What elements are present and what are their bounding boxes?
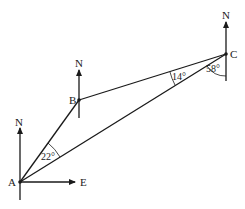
side-ac — [20, 54, 226, 182]
point-b — [77, 98, 81, 102]
north-label-a: N — [15, 116, 23, 128]
point-a — [18, 180, 22, 184]
side-bc — [79, 54, 226, 100]
point-c — [224, 52, 228, 56]
north-label-b: N — [75, 57, 83, 69]
label-b: B — [69, 94, 76, 106]
angle-label-c-58: 58° — [206, 63, 220, 74]
bearing-diagram: N E N N A B C 22° 14° 58° — [0, 0, 245, 209]
angle-label-a: 22° — [41, 151, 55, 162]
label-c: C — [230, 48, 237, 60]
north-label-c: N — [222, 9, 230, 21]
angle-label-c-14: 14° — [172, 71, 186, 82]
label-a: A — [8, 176, 16, 188]
east-label: E — [80, 176, 87, 188]
side-ab — [20, 100, 79, 182]
